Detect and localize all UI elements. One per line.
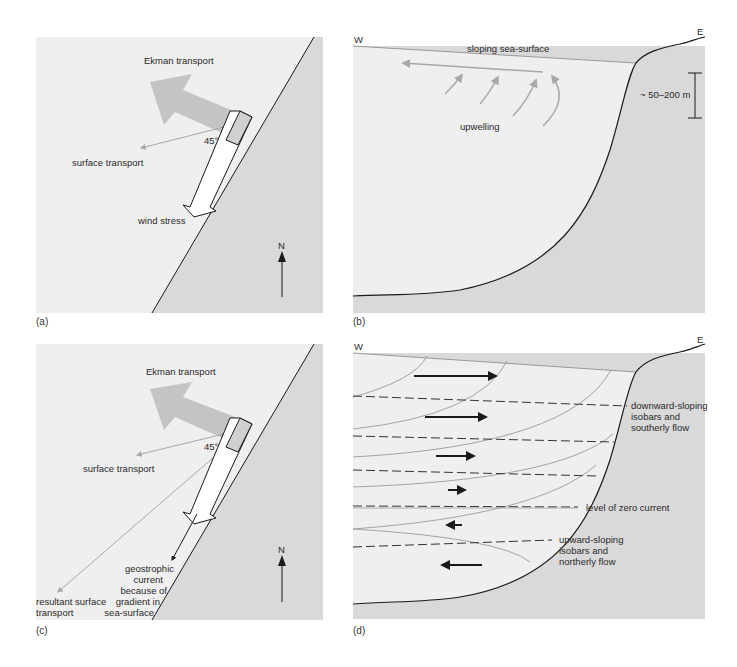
geostrophic-label: current bbox=[133, 574, 163, 585]
geostrophic-label: because of bbox=[121, 585, 168, 596]
panel-label-d: (d) bbox=[353, 625, 365, 636]
panel-label-c: (c) bbox=[36, 625, 48, 636]
downward-sloping-label: downward-sloping bbox=[631, 400, 708, 411]
ekman-transport-label: Ekman transport bbox=[146, 366, 216, 377]
geostrophic-label: sea-surface bbox=[104, 607, 154, 618]
resultant-transport-label: resultant surface bbox=[36, 596, 106, 607]
upward-sloping-label: isobars and bbox=[559, 545, 608, 556]
panel-d: W E downward-sloping isobars and souther… bbox=[353, 334, 708, 636]
ekman-transport-label: Ekman transport bbox=[144, 55, 214, 66]
upward-sloping-label: upward-sloping bbox=[559, 534, 623, 545]
upwelling-label: upwelling bbox=[460, 121, 500, 132]
upward-sloping-label: northerly flow bbox=[559, 556, 616, 567]
geostrophic-label: geostrophic bbox=[125, 563, 174, 574]
sloping-sea-surface-label: sloping sea-surface bbox=[467, 43, 549, 54]
west-label: W bbox=[354, 34, 363, 45]
east-label: E bbox=[697, 334, 703, 345]
wind-stress-label: wind stress bbox=[137, 215, 186, 226]
geostrophic-label: gradient in bbox=[116, 596, 160, 607]
angle-label: 45° bbox=[204, 441, 219, 452]
angle-label: 45° bbox=[204, 135, 219, 146]
east-label: E bbox=[697, 26, 703, 37]
north-label: N bbox=[278, 544, 285, 555]
downward-sloping-label: isobars and bbox=[631, 411, 680, 422]
diagram-canvas: Ekman transport surface transport 45° wi… bbox=[0, 0, 737, 667]
panel-a: Ekman transport surface transport 45° wi… bbox=[36, 37, 323, 327]
panel-label-a: (a) bbox=[36, 316, 48, 327]
downward-sloping-label: southerly flow bbox=[631, 422, 689, 433]
depth-label: ~ 50–200 m bbox=[640, 89, 691, 100]
zero-current-label: level of zero current bbox=[586, 502, 670, 513]
surface-transport-label: surface transport bbox=[72, 157, 144, 168]
west-label: W bbox=[354, 341, 363, 352]
panel-label-b: (b) bbox=[353, 316, 365, 327]
resultant-transport-label: transport bbox=[36, 607, 74, 618]
panel-c: Ekman transport surface transport 45° N … bbox=[36, 344, 323, 636]
north-label: N bbox=[278, 240, 285, 251]
panel-b: W E sloping sea-surface upwelling ~ 50–2… bbox=[353, 26, 705, 327]
surface-transport-label: surface transport bbox=[83, 463, 155, 474]
